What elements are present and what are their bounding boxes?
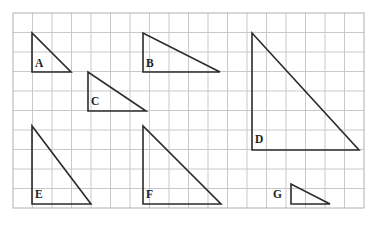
- triangle-f-label: F: [146, 188, 153, 200]
- triangle-e-label: E: [35, 188, 43, 200]
- triangle-f: [143, 126, 221, 204]
- shapes-layer: [32, 33, 359, 204]
- triangle-c-label: C: [91, 95, 99, 107]
- grid-triangles-figure: ABCDEFG: [0, 0, 387, 229]
- triangle-b-label: B: [146, 57, 154, 69]
- triangle-d-label: D: [255, 133, 263, 145]
- triangle-g-label: G: [273, 188, 282, 200]
- figure-canvas: ABCDEFG: [0, 0, 387, 229]
- grid-layer: [13, 13, 364, 208]
- triangle-g: [291, 184, 330, 204]
- triangle-a-label: A: [35, 57, 44, 69]
